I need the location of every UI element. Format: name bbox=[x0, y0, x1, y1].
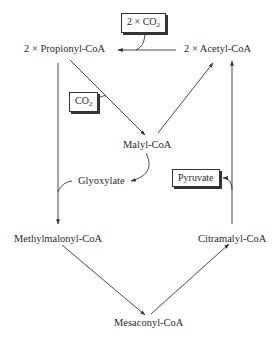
node-citramalyl-coa: Citramalyl-CoA bbox=[198, 234, 266, 245]
pathway-diagram: 2 × Propionyl-CoA 2 × Acetyl-CoA Malyl-C… bbox=[0, 0, 280, 345]
arrow-malyl-to-glyoxylate bbox=[131, 153, 149, 181]
node-acetyl-coa: 2 × Acetyl-CoA bbox=[184, 44, 251, 55]
cofactor-box-2co2: 2 × CO2 bbox=[121, 13, 166, 33]
cofactor-pyruvate-label: Pyruvate bbox=[178, 172, 214, 183]
node-glyoxylate: Glyoxylate bbox=[78, 176, 125, 187]
arrow-malyl-to-acetyl bbox=[158, 63, 213, 133]
node-propionyl-coa: 2 × Propionyl-CoA bbox=[24, 44, 105, 55]
cofactor-co2-subscript: 2 bbox=[89, 100, 93, 108]
arrow-methylmalonyl-to-mesaconyl bbox=[62, 245, 145, 315]
node-malyl-coa: Malyl-CoA bbox=[123, 140, 171, 151]
glyoxylate-input-curve bbox=[58, 181, 72, 192]
cofactor-box-co2: CO2 bbox=[69, 92, 98, 112]
cofactor-co2-prefix: CO bbox=[75, 95, 89, 106]
cofactor-2co2-subscript: 2 bbox=[157, 21, 161, 29]
node-mesaconyl-coa: Mesaconyl-CoA bbox=[114, 318, 183, 329]
pyruvate-output-curve bbox=[223, 178, 232, 190]
co2-input-curve-top bbox=[136, 31, 145, 50]
cofactor-2co2-prefix: 2 × CO bbox=[127, 16, 157, 27]
arrow-mesaconyl-to-citramalyl bbox=[151, 244, 229, 314]
node-methylmalonyl-coa: Methylmalonyl-CoA bbox=[14, 234, 102, 245]
cofactor-box-pyruvate: Pyruvate bbox=[172, 169, 220, 187]
